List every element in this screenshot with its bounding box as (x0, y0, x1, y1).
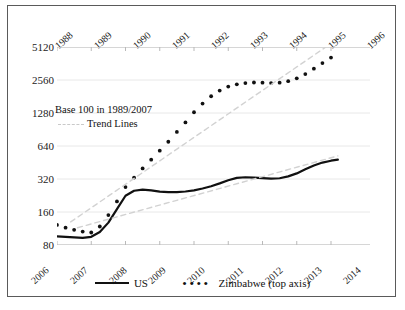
dotted-line-key: •••• (179, 281, 213, 287)
legend-label-zimbabwe: Zimbabwe (top axis) (218, 277, 310, 289)
y-tick-160: 160 (38, 207, 55, 218)
y-tick-1280: 1280 (32, 108, 54, 119)
y-tick-320: 320 (38, 174, 55, 185)
plot-area (57, 47, 370, 245)
gridlines (57, 47, 370, 245)
y-tick-80: 80 (43, 240, 54, 251)
y-tick-2560: 2560 (32, 75, 54, 86)
base-note: Base 100 in 1989/2007 (55, 104, 152, 115)
trend-note: Trend Lines (87, 118, 138, 129)
trend-line-key (58, 124, 84, 125)
y-tick-640: 640 (38, 141, 55, 152)
series-layer (57, 47, 338, 238)
chart-figure: 5120 2560 1280 640 320 160 80 1988 1989 … (0, 0, 405, 310)
legend-label-us: US (134, 277, 148, 289)
legend-item-zimbabwe: ••••Zimbabwe (top axis) (179, 277, 310, 289)
solid-line-key (95, 282, 129, 284)
legend-item-us: US (95, 277, 148, 289)
y-axis-tick-labels: 5120 2560 1280 640 320 160 80 (10, 0, 54, 310)
chart-legend: US ••••Zimbabwe (top axis) (0, 276, 405, 289)
y-tick-5120: 5120 (32, 42, 54, 53)
plot-svg (57, 47, 370, 245)
